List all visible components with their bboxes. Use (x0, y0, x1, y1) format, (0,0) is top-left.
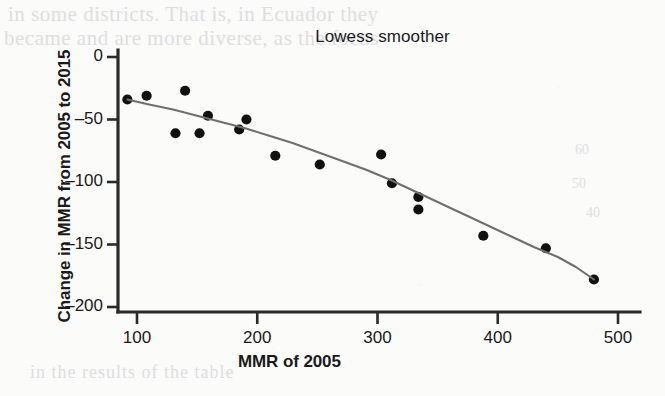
scatter-point (142, 91, 152, 101)
scatter-plot-canvas (0, 0, 665, 396)
scatter-point (194, 128, 204, 138)
scatter-point (270, 151, 280, 161)
scatter-point (413, 204, 423, 214)
scatter-point (478, 231, 488, 241)
lowess-smoother-line (127, 100, 594, 280)
scatter-point (315, 159, 325, 169)
scanned-chart-page: in some districts. That is, in Ecuador t… (0, 0, 665, 396)
scatter-point (241, 114, 251, 124)
scatter-point (180, 86, 190, 96)
scatter-point (170, 128, 180, 138)
scatter-point (376, 149, 386, 159)
